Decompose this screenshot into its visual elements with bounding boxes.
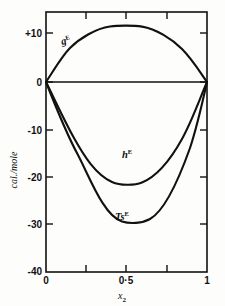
- chart-svg: +10 0 -10 -20 -30 -40 0 0·5 1 cal./mole …: [0, 0, 225, 306]
- y-tick-label-minus10: -10: [28, 125, 43, 136]
- curve-label-entropy-sup: E: [125, 210, 129, 217]
- curve-excess-gibbs: [46, 26, 207, 82]
- curve-label-entropy-base: Ts: [115, 211, 125, 222]
- curve-label-excess-gibbs: gE: [58, 33, 71, 47]
- y-tick-label-minus30: -30: [28, 219, 43, 230]
- y-tick-label-0: 0: [36, 77, 42, 88]
- curve-label-gibbs-sup: E: [64, 33, 70, 41]
- x-tick-label-1: 1: [204, 275, 210, 286]
- curve-label-enthalpy-sup: E: [128, 148, 132, 155]
- svg-text:x2: x2: [117, 290, 126, 304]
- x-axis-ticks: [86, 12, 167, 272]
- curve-label-excess-entropy-term: TsE: [115, 210, 129, 222]
- x-axis-title: x2: [117, 290, 126, 304]
- y-axis-title: cal./mole: [8, 151, 19, 188]
- chart-figure: +10 0 -10 -20 -30 -40 0 0·5 1 cal./mole …: [0, 0, 225, 306]
- y-tick-label-minus40: -40: [28, 266, 43, 277]
- curve-label-excess-enthalpy: hE: [122, 148, 132, 160]
- x-axis-title-sub: 2: [122, 296, 126, 304]
- y-axis-ticks: [46, 33, 207, 224]
- y-tick-label-minus20: -20: [28, 172, 43, 183]
- x-tick-label-05: 0·5: [119, 275, 134, 286]
- x-tick-label-0: 0: [43, 275, 49, 286]
- y-tick-label-plus10: +10: [25, 28, 42, 39]
